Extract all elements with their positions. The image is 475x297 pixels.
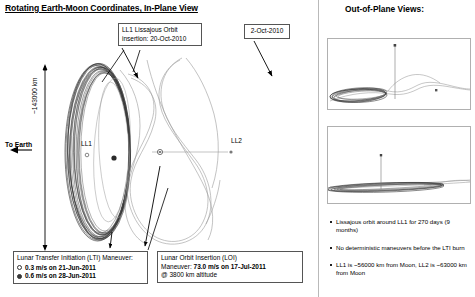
lissajous-band-bottom [327, 181, 444, 194]
out-of-plane-panel-bottom [327, 126, 471, 204]
loi-line3: @ 3800 km altitude [161, 271, 299, 280]
out-of-plane-plot-top [328, 39, 471, 110]
date-oct-callout-line1: 2-Oct-2010 [248, 27, 286, 36]
ll1-label: LL1 [81, 140, 92, 147]
lissajous-callout-line1: LL1 Lissajous Orbit [122, 26, 198, 35]
loi-maneuver-callout: Lunar Orbit Insertion (LOI) Maneuver: 73… [157, 251, 303, 283]
moon-marker [111, 155, 116, 160]
ll2-point [229, 150, 232, 153]
lti-option-row: 0.6 m/s on 28-Jun-2011 [17, 272, 144, 281]
lissajous-callout-leader-b [133, 50, 140, 72]
lti-option-label: 0.6 m/s on 28-Jun-2011 [25, 272, 96, 281]
loi-line2-prefix: Maneuver: [161, 263, 194, 270]
distance-label: ~143000 km [31, 78, 38, 114]
lti-option-label: 0.3 m/s on 21-Jun-2011 [25, 264, 96, 273]
date-oct-callout: 2-Oct-2010 [244, 24, 290, 39]
ll1-inner-loops [90, 77, 133, 223]
loi-line2-value: 73.0 m/s on 17-Jul-2011 [194, 263, 266, 270]
loi-line2: Maneuver: 73.0 m/s on 17-Jul-2011 [161, 263, 299, 272]
out-of-plane-plot-bottom [328, 127, 471, 204]
note-item: No deterministic maneuvers before the LT… [330, 244, 472, 252]
figure-root: Rotating Earth-Moon Coordinates, In-Plan… [0, 0, 475, 297]
note-item: LL1 is ~56000 km from Moon, LL2 is ~6300… [330, 261, 472, 278]
to-earth-label: To Earth [5, 141, 32, 148]
lti-heading: Lunar Transfer Initiation (LTI) Maneuver… [17, 254, 144, 263]
out-of-plane-views-title: Out-of-Plane Views: [345, 4, 424, 14]
lti-maneuver-callout: Lunar Transfer Initiation (LTI) Maneuver… [13, 251, 148, 284]
date-callout-arrow [254, 41, 272, 76]
loi-line1: Lunar Orbit Insertion (LOI) [161, 254, 299, 263]
lti-callout-arrow-b [145, 166, 160, 246]
notes-list: Lissajous orbit around LL1 for 270 days … [330, 218, 472, 286]
transfer-trajectory [120, 58, 220, 244]
ll1-point [85, 153, 89, 157]
lissajous-insertion-callout: LL1 Lissajous Orbit insertion: 20-Oct-20… [118, 23, 202, 46]
ll2-label: LL2 [231, 137, 242, 144]
hollow-circle-marker-icon [17, 265, 22, 270]
note-item: Lissajous orbit around LL1 for 270 days … [330, 218, 472, 235]
note-text: LL1 is ~56000 km from Moon, LL2 is ~6300… [336, 261, 472, 278]
square-bullet-icon [330, 221, 332, 223]
note-text: No deterministic maneuvers before the LT… [336, 244, 472, 252]
filled-circle-marker-icon [17, 274, 22, 279]
note-text: Lissajous orbit around LL1 for 270 days … [336, 218, 472, 235]
square-bullet-icon [330, 247, 332, 249]
out-of-plane-panel-top [327, 38, 471, 110]
lti-option-row: 0.3 m/s on 21-Jun-2011 [17, 264, 144, 273]
square-bullet-icon [330, 264, 332, 266]
lissajous-callout-line2: insertion: 20-Oct-2010 [122, 35, 198, 44]
